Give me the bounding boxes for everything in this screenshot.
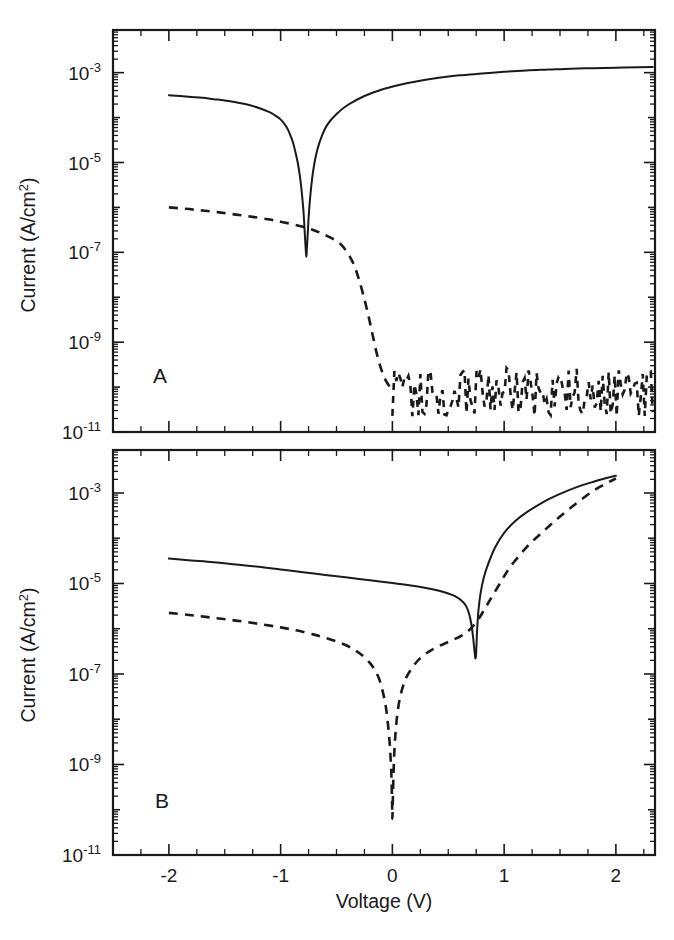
ytick-label: 10-11	[62, 419, 101, 443]
xtick-label: -1	[272, 865, 289, 886]
y-axis-title-exponent-b: 2	[16, 594, 31, 601]
y-axis-title-suffix-a: )	[17, 177, 39, 184]
ytick-label: 10-3	[68, 60, 101, 84]
panel-b-curves	[169, 476, 616, 819]
panel-b-ytick-labels: 10-310-510-710-910-11	[62, 480, 101, 866]
y-axis-title-suffix-b: )	[17, 587, 39, 594]
panel-b-letter: B	[155, 789, 169, 812]
xtick-label: -2	[160, 865, 177, 886]
curve-dashed-noise-floor	[392, 368, 652, 416]
y-axis-title-prefix-a: Current (A/cm	[17, 191, 39, 312]
y-axis-title-exponent-a: 2	[16, 184, 31, 191]
y-axis-title-b: Current (A/cm2)	[16, 587, 39, 722]
figure-root: 10-310-510-710-910-11 A 10-310-510-710-9…	[0, 0, 674, 940]
panel-a-curves	[169, 67, 653, 416]
y-axis-title-prefix-b: Current (A/cm	[17, 601, 39, 722]
xtick-label: 2	[611, 865, 622, 886]
panel-a-frame	[113, 30, 655, 432]
panel-b-ticks	[113, 450, 655, 855]
panel-a-ytick-labels: 10-310-510-710-910-11	[62, 60, 101, 443]
ytick-label: 10-5	[68, 150, 101, 174]
y-axis-title-a: Current (A/cm2)	[16, 177, 39, 312]
panel-a-letter: A	[153, 364, 167, 387]
curve-solid	[169, 67, 653, 257]
panel-a-ticks	[113, 30, 655, 432]
ytick-label: 10-9	[68, 329, 101, 353]
ytick-label: 10-7	[68, 661, 101, 685]
xtick-label: 0	[387, 865, 398, 886]
curve-solid	[169, 476, 616, 659]
svg-text:Current (A/cm2): Current (A/cm2)	[16, 587, 39, 722]
panel-b-frame	[113, 450, 655, 855]
ytick-label: 10-9	[68, 751, 101, 775]
iv-characteristics-figure: 10-310-510-710-910-11 A 10-310-510-710-9…	[0, 0, 674, 940]
ytick-label: 10-5	[68, 570, 101, 594]
ytick-label: 10-7	[68, 239, 101, 263]
ytick-label: 10-11	[62, 842, 101, 866]
panel-b: 10-310-510-710-910-11 -2-1012 B	[62, 450, 655, 886]
curve-dashed	[169, 207, 390, 387]
curve-dashed	[169, 479, 616, 819]
panel-b-xtick-labels: -2-1012	[160, 865, 621, 886]
panel-a: 10-310-510-710-910-11 A	[62, 30, 655, 443]
ytick-label: 10-3	[68, 480, 101, 504]
x-axis-title: Voltage (V)	[336, 890, 432, 912]
xtick-label: 1	[499, 865, 510, 886]
svg-text:Current (A/cm2): Current (A/cm2)	[16, 177, 39, 312]
